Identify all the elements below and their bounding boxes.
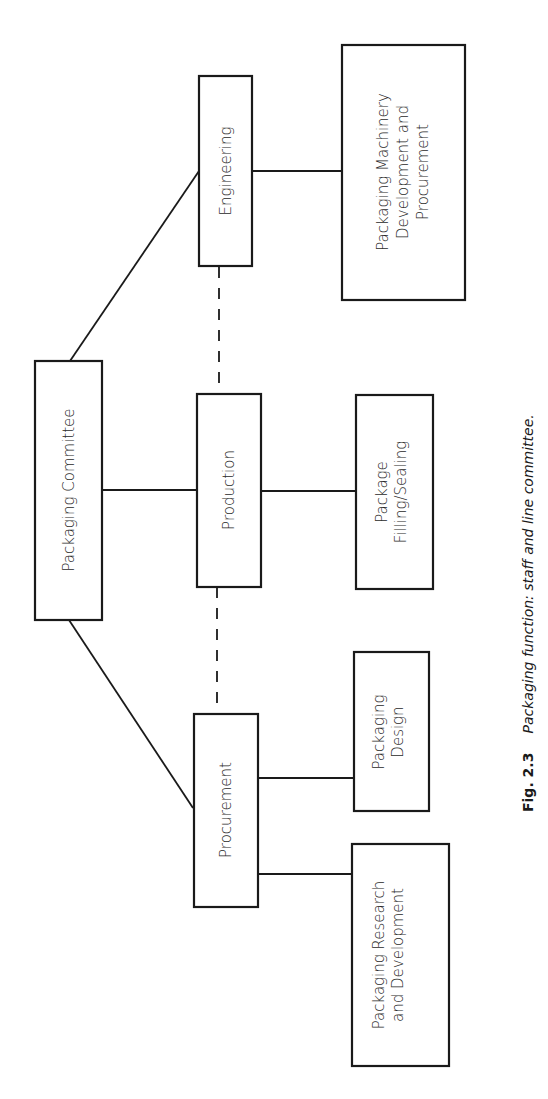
node-production: Production [197, 394, 261, 587]
node-committee-label: Packaging Committee [60, 408, 78, 571]
figure-caption-line: Fig. 2.3 Packaging function: staff and l… [518, 414, 537, 812]
node-procurement: Procurement [194, 714, 258, 907]
edge-committee-procurement [69, 620, 193, 808]
node-machinery-label-line2: Development and [394, 105, 412, 239]
node-procurement-label: Procurement [217, 762, 235, 858]
node-research-label-line1: Packaging Research [370, 881, 388, 1030]
node-filling: Package Filling/Sealing [356, 395, 433, 589]
node-design-label-line1: Packaging [370, 694, 388, 769]
node-machinery-label-line1: Packaging Machinery [374, 93, 392, 251]
node-filling-label-line1: Package [373, 461, 391, 523]
node-research-label-line2: and Development [389, 888, 407, 1022]
node-production-label: Production [220, 450, 238, 530]
node-engineering: Engineering [199, 76, 252, 266]
node-design: Packaging Design [354, 652, 429, 811]
figure-number: Fig. 2.3 [520, 753, 536, 812]
org-chart-diagram: Packaging Committee Engineering Producti… [0, 0, 548, 1099]
figure-caption-text: Packaging function: staff and line commi… [520, 414, 536, 733]
node-filling-label-line2: Filling/Sealing [392, 441, 410, 544]
node-committee: Packaging Committee [35, 361, 102, 620]
node-research: Packaging Research and Development [352, 844, 449, 1066]
node-machinery: Packaging Machinery Development and Proc… [342, 45, 465, 300]
figure-caption: Fig. 2.3 Packaging function: staff and l… [518, 414, 537, 812]
node-machinery-label-line3: Procurement [414, 124, 432, 220]
node-engineering-label: Engineering [217, 127, 235, 216]
node-design-label-line2: Design [389, 706, 407, 757]
edge-committee-engineering [70, 171, 199, 361]
